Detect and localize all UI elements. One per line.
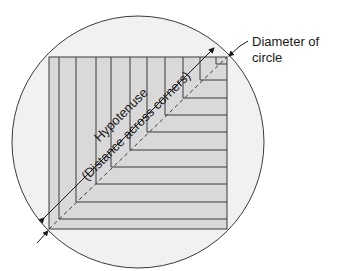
leader-line (240, 41, 248, 46)
lower-arrow (37, 231, 48, 243)
diagram-canvas: Diameter of circle Hypotenuse (Distance … (0, 0, 337, 271)
diameter-label-line1: Diameter of (252, 34, 320, 49)
upper-arrow (229, 46, 240, 56)
diameter-label-line2: circle (252, 50, 282, 65)
